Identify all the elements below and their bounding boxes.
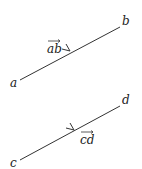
point-a-label: a [10,76,17,90]
arrowhead-ab-icon [62,44,70,51]
vector-diagram: a b ab c d cd [0,0,142,169]
vector-ab-label: ab [47,42,62,56]
arrowhead-cd-icon [66,123,74,130]
vector-ab: a b ab [10,14,130,90]
vector-cd: c d cd [10,93,130,169]
point-c-label: c [10,156,17,169]
line-cd [20,106,120,160]
line-ab [20,27,120,80]
point-b-label: b [122,14,130,28]
vector-cd-label: cd [80,133,95,147]
point-d-label: d [122,93,130,107]
